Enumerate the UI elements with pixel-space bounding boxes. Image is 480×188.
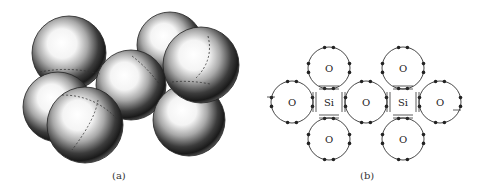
electron-dot — [434, 80, 438, 84]
oxygen-sphere — [47, 87, 123, 163]
electron-dot — [286, 80, 290, 84]
electron-dot — [344, 96, 348, 100]
electron-dot — [332, 87, 336, 91]
oxygen-atom: O — [270, 80, 315, 125]
electron-dot — [307, 71, 311, 75]
oxygen-sphere — [163, 27, 239, 103]
electron-dot — [311, 105, 315, 109]
atom-label: O — [436, 97, 444, 108]
electron-dot — [406, 117, 410, 121]
atom-label: O — [399, 63, 407, 74]
electron-dot — [369, 121, 373, 125]
electron-dot — [307, 133, 311, 137]
electron-dot — [381, 133, 385, 137]
electron-dot — [348, 133, 352, 137]
electron-dot — [307, 62, 311, 66]
electron-dot — [418, 96, 422, 100]
caption-a: (a) — [112, 170, 126, 181]
electron-dot — [332, 46, 336, 50]
electron-dot — [381, 142, 385, 146]
electron-dot — [406, 46, 410, 50]
oxygen-atom: O — [381, 46, 426, 91]
oxygen-atom: O — [307, 117, 352, 162]
electron-dot — [443, 121, 447, 125]
panel-b-bonding-diagram: OOOSiOSiOOO (b) — [245, 0, 480, 188]
electron-dot — [434, 121, 438, 125]
electron-dot — [381, 71, 385, 75]
electron-dot — [459, 105, 463, 109]
electron-dot — [270, 105, 274, 109]
electron-dot — [397, 87, 401, 91]
electron-dot — [422, 133, 426, 137]
electron-dot — [418, 105, 422, 109]
electron-dot — [406, 158, 410, 162]
electron-dot — [360, 80, 364, 84]
silicon-atom: Si — [398, 97, 408, 108]
oxygen-atom: O — [344, 80, 389, 125]
panel-a-sphere-model: (a) — [0, 0, 245, 188]
electron-dot — [443, 80, 447, 84]
electron-dot — [295, 80, 299, 84]
electron-dot — [332, 117, 336, 121]
electron-dot — [307, 142, 311, 146]
silicon-atom: Si — [324, 97, 334, 108]
electron-dot — [459, 96, 463, 100]
electron-dot — [422, 71, 426, 75]
electron-dot — [286, 121, 290, 125]
oxygen-atom: O — [381, 117, 426, 162]
electron-dot — [323, 46, 327, 50]
atom-label: Si — [324, 97, 334, 108]
electron-dot — [397, 158, 401, 162]
electron-dot — [323, 117, 327, 121]
electron-dot — [270, 96, 274, 100]
electron-dot — [295, 121, 299, 125]
electron-dot — [348, 142, 352, 146]
electron-dot — [422, 142, 426, 146]
atom-label: O — [325, 63, 333, 74]
electron-dot — [348, 62, 352, 66]
electron-dot — [385, 96, 389, 100]
atom-label: O — [288, 97, 296, 108]
electron-dot — [397, 117, 401, 121]
oxygen-atom: O — [418, 80, 463, 125]
electron-dot-diagram: OOOSiOSiOOO — [245, 0, 480, 188]
electron-dot — [348, 71, 352, 75]
electron-dot — [381, 62, 385, 66]
atom-label: Si — [398, 97, 408, 108]
electron-dot — [344, 105, 348, 109]
electron-dot — [422, 62, 426, 66]
atom-label: O — [325, 134, 333, 145]
electron-dot — [369, 80, 373, 84]
electron-dot — [406, 87, 410, 91]
electron-dot — [360, 121, 364, 125]
electron-dot — [323, 87, 327, 91]
oxygen-atom: O — [307, 46, 352, 91]
electron-dot — [385, 105, 389, 109]
atom-label: O — [399, 134, 407, 145]
electron-dot — [397, 46, 401, 50]
caption-b: (b) — [360, 170, 374, 181]
sphere-model-drawing — [0, 0, 245, 188]
electron-dot — [323, 158, 327, 162]
atom-label: O — [362, 97, 370, 108]
electron-dot — [311, 96, 315, 100]
electron-dot — [332, 158, 336, 162]
